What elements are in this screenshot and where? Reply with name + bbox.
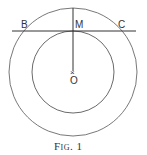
figure-diagram: B M C × O Fig. 1 [0, 0, 147, 155]
label-b: B [21, 19, 28, 30]
label-o: O [70, 75, 78, 86]
label-m: M [75, 19, 83, 30]
figure-caption: Fig. 1 [54, 140, 83, 152]
label-c: C [118, 19, 125, 30]
